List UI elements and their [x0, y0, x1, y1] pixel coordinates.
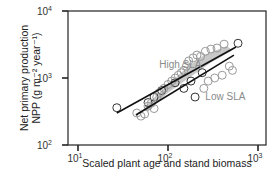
data-point: [234, 39, 242, 47]
data-point: [220, 40, 228, 48]
annotation-low-sla: Low SLA: [205, 91, 245, 102]
y-axis-title-line1: Net primary production: [18, 25, 30, 131]
annotation-high-sla: High SLA: [159, 59, 202, 70]
y-axis-title-line2: NPP (g m⁻² year⁻¹): [30, 32, 42, 123]
data-point: [113, 104, 121, 112]
plot-frame: [68, 11, 266, 145]
x-tick-label: 101: [67, 152, 82, 164]
data-point: [191, 93, 199, 101]
y-tick-label: 102: [37, 139, 52, 151]
npp-scatter-chart: 102103104 101102103 High SLA Low SLA Sca…: [0, 0, 279, 192]
data-point: [218, 71, 226, 79]
data-point: [204, 77, 212, 85]
x-axis-title: Scaled plant age and stand biomass: [82, 157, 251, 169]
y-tick-label: 104: [37, 5, 52, 17]
